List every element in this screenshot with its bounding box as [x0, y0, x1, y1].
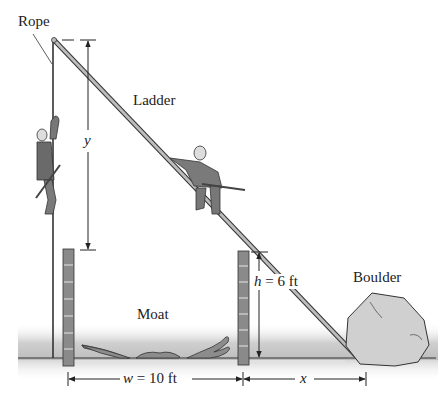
ladder: [52, 38, 363, 363]
left-wall: [63, 249, 74, 366]
moat-label: Moat: [137, 307, 169, 322]
rope-label: Rope: [18, 14, 50, 29]
rope-leader-line: [33, 34, 52, 64]
x-label: x: [300, 371, 307, 386]
boulder-icon: [346, 293, 429, 366]
w-label: w = 10 ft: [123, 371, 177, 386]
ladder-moat-diagram: Rope Ladder Moat Boulder y h = 6 ft w = …: [0, 0, 439, 406]
rope-climber-figure: [36, 116, 60, 214]
y-label: y: [84, 133, 91, 148]
boulder-label: Boulder: [353, 270, 401, 285]
ladder-label: Ladder: [133, 93, 175, 108]
h-label: h = 6 ft: [253, 274, 299, 289]
right-wall: [238, 251, 249, 365]
